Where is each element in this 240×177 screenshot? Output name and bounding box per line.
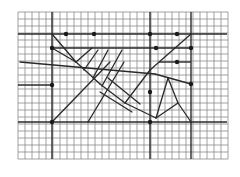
figure-segment [88, 62, 124, 122]
figure-point [189, 82, 193, 86]
axis-lines [18, 12, 227, 159]
figure-point [92, 32, 96, 36]
figure-point [148, 120, 152, 124]
figure-point [50, 120, 54, 124]
figure-segment [178, 103, 191, 122]
figure-point [175, 60, 179, 64]
figure-point [148, 32, 152, 36]
figure-point [64, 32, 68, 36]
figure-point [154, 46, 158, 50]
geometry-grid-diagram [0, 0, 240, 177]
figure-point [50, 83, 54, 87]
figure-point [148, 90, 152, 94]
figure-point [189, 46, 193, 50]
figure-point [50, 46, 54, 50]
figure-point [175, 32, 179, 36]
figure-segment [52, 48, 76, 62]
figure-segment [76, 48, 92, 62]
figure-segment [150, 34, 191, 70]
